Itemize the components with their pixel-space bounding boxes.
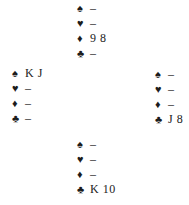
south-hand: ♠ – ♥ – ♦ – ♣ K 10 xyxy=(77,137,116,197)
east-clubs-holding: J 8 xyxy=(168,112,183,127)
north-hearts-holding: – xyxy=(90,16,97,31)
north-diamonds-holding: 9 8 xyxy=(90,31,107,46)
club-icon: ♣ xyxy=(155,112,168,127)
east-hearts-row: ♥ – xyxy=(155,82,183,97)
south-clubs-row: ♣ K 10 xyxy=(77,182,116,197)
spade-icon: ♠ xyxy=(12,66,25,81)
north-hand: ♠ – ♥ – ♦ 9 8 ♣ – xyxy=(77,1,107,61)
west-clubs-row: ♣ – xyxy=(12,111,43,126)
club-icon: ♣ xyxy=(12,111,25,126)
north-spades-holding: – xyxy=(90,1,97,16)
east-diamonds-row: ♦ – xyxy=(155,97,183,112)
west-spades-row: ♠ K J xyxy=(12,66,43,81)
heart-icon: ♥ xyxy=(77,152,90,167)
west-diamonds-holding: – xyxy=(25,96,32,111)
south-spades-holding: – xyxy=(90,137,97,152)
west-clubs-holding: – xyxy=(25,111,32,126)
south-diamonds-row: ♦ – xyxy=(77,167,116,182)
north-clubs-holding: – xyxy=(90,46,97,61)
east-spades-holding: – xyxy=(168,67,175,82)
diamond-icon: ♦ xyxy=(155,97,168,112)
west-diamonds-row: ♦ – xyxy=(12,96,43,111)
north-spades-row: ♠ – xyxy=(77,1,107,16)
west-hearts-holding: – xyxy=(25,81,32,96)
south-hearts-row: ♥ – xyxy=(77,152,116,167)
north-clubs-row: ♣ – xyxy=(77,46,107,61)
heart-icon: ♥ xyxy=(77,16,90,31)
club-icon: ♣ xyxy=(77,182,90,197)
club-icon: ♣ xyxy=(77,46,90,61)
west-hearts-row: ♥ – xyxy=(12,81,43,96)
spade-icon: ♠ xyxy=(77,1,90,16)
east-diamonds-holding: – xyxy=(168,97,175,112)
spade-icon: ♠ xyxy=(155,67,168,82)
east-hearts-holding: – xyxy=(168,82,175,97)
diamond-icon: ♦ xyxy=(77,31,90,46)
south-hearts-holding: – xyxy=(90,152,97,167)
bridge-deal-diagram: ♠ – ♥ – ♦ 9 8 ♣ – ♠ K J ♥ – ♦ – ♣ xyxy=(0,0,189,205)
diamond-icon: ♦ xyxy=(12,96,25,111)
north-diamonds-row: ♦ 9 8 xyxy=(77,31,107,46)
north-hearts-row: ♥ – xyxy=(77,16,107,31)
heart-icon: ♥ xyxy=(155,82,168,97)
east-hand: ♠ – ♥ – ♦ – ♣ J 8 xyxy=(155,67,183,127)
west-hand: ♠ K J ♥ – ♦ – ♣ – xyxy=(12,66,43,126)
south-spades-row: ♠ – xyxy=(77,137,116,152)
east-spades-row: ♠ – xyxy=(155,67,183,82)
heart-icon: ♥ xyxy=(12,81,25,96)
west-spades-holding: K J xyxy=(25,66,43,81)
south-clubs-holding: K 10 xyxy=(90,182,116,197)
south-diamonds-holding: – xyxy=(90,167,97,182)
spade-icon: ♠ xyxy=(77,137,90,152)
diamond-icon: ♦ xyxy=(77,167,90,182)
east-clubs-row: ♣ J 8 xyxy=(155,112,183,127)
